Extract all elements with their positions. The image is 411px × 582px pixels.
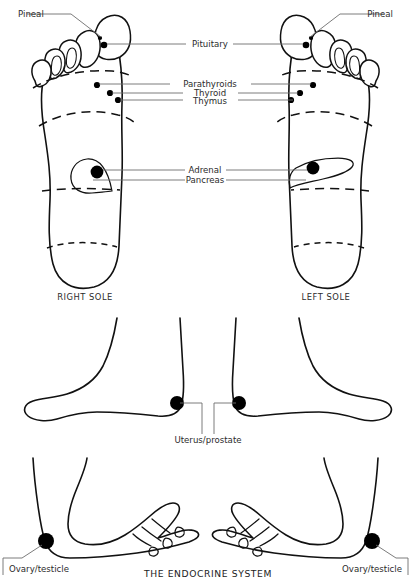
reflex-point-ovary-testicle-right[interactable] (364, 533, 380, 549)
reflex-point-pituitary-left[interactable] (303, 42, 310, 49)
right-toenail-4 (51, 56, 61, 75)
label-uterus-prostate: Uterus/prostate (174, 435, 241, 445)
label-pineal-left: Pineal (367, 9, 393, 19)
label-pancreas: Pancreas (186, 175, 225, 185)
left-toenail-4 (350, 56, 360, 75)
label-ovary-testicle-left: Ovary/testicle (9, 564, 69, 574)
label-pineal-right: Pineal (18, 9, 44, 19)
reflex-point-ovary-testicle-left[interactable] (38, 533, 54, 549)
reflex-point-parathyroids-right[interactable] (94, 82, 100, 88)
caption-right-sole: RIGHT SOLE (57, 292, 113, 302)
label-ovary-testicle-right: Ovary/testicle (342, 564, 402, 574)
left-toenail-3 (335, 48, 345, 68)
label-adrenal: Adrenal (189, 165, 222, 175)
reflex-point-pituitary-right[interactable] (101, 42, 108, 49)
right-toenail-3 (66, 48, 76, 68)
label-thymus: Thymus (192, 96, 228, 106)
label-pituitary: Pituitary (192, 39, 228, 49)
figure-title: THE ENDOCRINE SYSTEM (143, 568, 272, 579)
endocrine-reflexology-diagram: Pineal Pineal Pituitary Parathyroids Thy… (0, 0, 411, 582)
reflex-point-adrenal-left[interactable] (307, 162, 320, 175)
reflex-point-adrenal-right[interactable] (91, 166, 104, 179)
reflex-point-parathyroids-left[interactable] (310, 82, 316, 88)
caption-left-sole: LEFT SOLE (302, 292, 351, 302)
